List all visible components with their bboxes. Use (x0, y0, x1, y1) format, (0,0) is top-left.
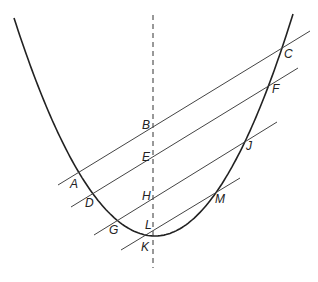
label-point-a: A (69, 177, 78, 191)
chord-KLM (121, 178, 240, 250)
label-point-e: E (142, 150, 151, 164)
label-point-d: D (85, 196, 94, 210)
chord-ABC (58, 31, 310, 185)
label-point-f: F (272, 82, 280, 96)
label-point-b: B (142, 118, 150, 132)
label-point-m: M (215, 192, 225, 206)
label-point-h: H (142, 189, 151, 203)
label-point-c: C (284, 47, 293, 61)
point-labels: ABCDEFGHJLKM (69, 47, 293, 254)
label-point-j: J (245, 139, 253, 153)
parabola-chords-diagram: ABCDEFGHJLKM (0, 0, 318, 282)
diagram-canvas: ABCDEFGHJLKM (0, 0, 318, 282)
label-point-l: L (145, 218, 152, 232)
label-point-g: G (109, 223, 118, 237)
chord-DEF (71, 68, 298, 207)
parallel-chords (58, 31, 310, 250)
label-point-k: K (141, 240, 150, 254)
